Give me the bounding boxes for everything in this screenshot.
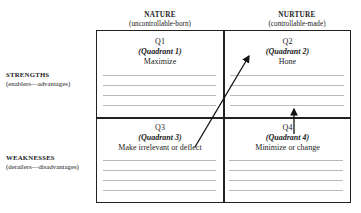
arrow-q3-to-q2-icon: [195, 56, 249, 147]
arrows-layer: [0, 0, 361, 213]
